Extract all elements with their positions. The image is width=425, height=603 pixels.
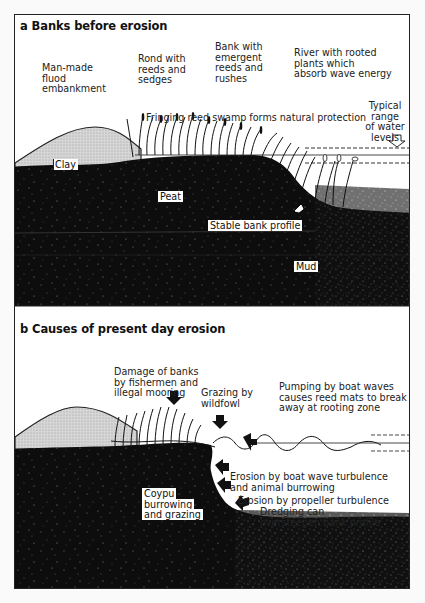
label-dredging: Dredging can oversteepen bank profile [260,507,380,528]
label-fringing-reed: Fringing reed swamp forms natural protec… [146,113,366,124]
label-clay: Clay [53,160,78,171]
label-pumping-boat-waves: Pumping by boat waves causes reed mats t… [279,382,407,414]
diagram-frame: a Banks before erosion Man-made fluod em… [14,14,410,589]
label-rond: Rond with reeds and sedges [138,54,186,86]
label-damage-fishermen: Damage of banks by fishermen and illegal… [114,367,198,399]
panel-a-title: a Banks before erosion [20,19,167,33]
label-grazing-wildfowl: Grazing by wildfowl [201,388,253,409]
label-stable-bank-profile: Stable bank profile [208,221,302,232]
label-coypu: Coypu burrowing and grazing [142,489,203,521]
label-embankment: Man-made fluod embankment [42,63,106,95]
label-erosion-propeller: Erosion by propeller turbulence [238,496,389,507]
label-water-levels: Typical range of water levels [363,101,407,143]
label-erosion-boat-wave: Erosion by boat wave turbulence and anim… [230,472,388,493]
panel-b-title: b Causes of present day erosion [20,322,225,336]
label-river: River with rooted plants which absorb wa… [294,48,392,80]
label-mud: Mud [294,262,318,273]
label-peat: Peat [158,192,183,203]
label-bank: Bank with emergent reeds and rushes [215,42,263,84]
